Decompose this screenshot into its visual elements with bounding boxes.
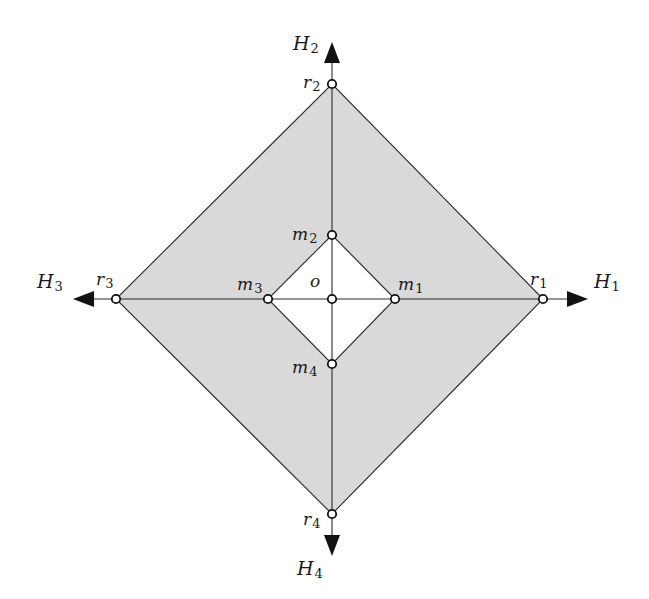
label-h1: H1 bbox=[594, 272, 620, 293]
label-h4: H4 bbox=[297, 559, 323, 580]
node-m2 bbox=[328, 231, 336, 239]
label-o: o bbox=[310, 273, 320, 290]
diagram-svg bbox=[0, 0, 649, 599]
label-r2: r2 bbox=[303, 74, 320, 93]
label-r4: r4 bbox=[303, 511, 320, 530]
label-r3: r3 bbox=[96, 271, 113, 290]
label-r1: r1 bbox=[530, 271, 547, 290]
label-m2: m2 bbox=[292, 226, 317, 245]
node-r2 bbox=[328, 80, 336, 88]
label-h3: H3 bbox=[37, 272, 63, 293]
arrow-h1-icon bbox=[567, 291, 588, 307]
label-m4: m4 bbox=[292, 359, 317, 378]
node-r1 bbox=[539, 295, 547, 303]
label-h2: H2 bbox=[293, 34, 319, 55]
node-m3 bbox=[264, 295, 272, 303]
arrow-h2-icon bbox=[324, 42, 340, 63]
node-r4 bbox=[328, 510, 336, 518]
node-r3 bbox=[112, 295, 120, 303]
label-m3: m3 bbox=[237, 276, 262, 295]
arrow-h4-icon bbox=[324, 535, 340, 556]
arrow-h3-icon bbox=[73, 291, 94, 307]
node-m1 bbox=[391, 295, 399, 303]
label-m1: m1 bbox=[398, 276, 423, 295]
diagram-canvas: H1 H2 H3 H4 r1 r2 r3 r4 m1 m2 m3 m4 o bbox=[0, 0, 649, 599]
node-o bbox=[328, 295, 336, 303]
node-m4 bbox=[328, 360, 336, 368]
